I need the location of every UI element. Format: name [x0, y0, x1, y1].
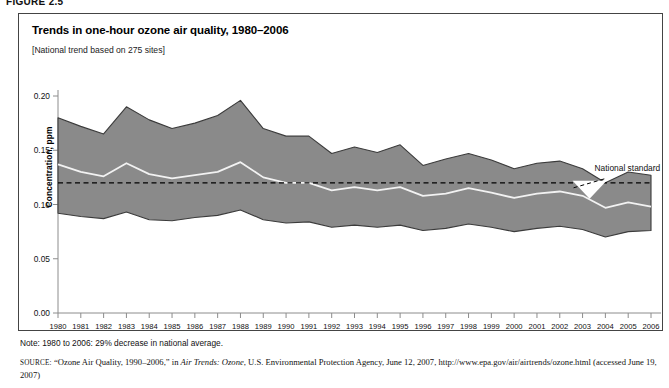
svg-text:1990: 1990	[278, 322, 295, 331]
svg-text:2004: 2004	[597, 322, 614, 331]
source-text-before: “Ozone Air Quality, 1990–2006,” in	[54, 357, 181, 367]
svg-text:1987: 1987	[209, 322, 226, 331]
svg-text:1984: 1984	[141, 322, 158, 331]
svg-text:0.20: 0.20	[34, 91, 51, 101]
svg-text:0.05: 0.05	[34, 254, 51, 264]
svg-text:1989: 1989	[255, 322, 272, 331]
svg-text:1986: 1986	[186, 322, 203, 331]
ozone-trend-chart: 0.000.050.100.150.2019801981198219831984…	[19, 14, 664, 332]
svg-text:1992: 1992	[323, 322, 340, 331]
svg-text:1983: 1983	[118, 322, 135, 331]
svg-text:1994: 1994	[369, 322, 386, 331]
svg-text:1995: 1995	[392, 322, 409, 331]
svg-text:2002: 2002	[551, 322, 568, 331]
source-prefix: SOURCE:	[20, 359, 52, 367]
svg-text:1988: 1988	[232, 322, 249, 331]
figure-box: Trends in one-hour ozone air quality, 19…	[18, 13, 663, 331]
source-italic-title: Air Trends: Ozone	[181, 357, 244, 367]
svg-text:1980: 1980	[50, 322, 67, 331]
figure-source: SOURCE: “Ozone Air Quality, 1990–2006,” …	[20, 357, 660, 381]
svg-text:2001: 2001	[529, 322, 546, 331]
svg-text:1998: 1998	[460, 322, 477, 331]
svg-text:0.15: 0.15	[34, 145, 51, 155]
chart-plot-area: Concentration, ppm 0.000.050.100.150.201…	[19, 14, 664, 332]
svg-text:0.10: 0.10	[34, 200, 51, 210]
svg-text:1981: 1981	[72, 322, 89, 331]
svg-text:1996: 1996	[414, 322, 431, 331]
figure-label: FIGURE 2.5	[6, 0, 63, 7]
svg-text:1985: 1985	[164, 322, 181, 331]
svg-text:2005: 2005	[620, 322, 637, 331]
svg-text:1991: 1991	[300, 322, 317, 331]
svg-text:0.00: 0.00	[34, 308, 51, 318]
svg-text:2003: 2003	[574, 322, 591, 331]
svg-text:National standard: National standard	[595, 163, 661, 173]
svg-text:1997: 1997	[437, 322, 454, 331]
svg-text:2000: 2000	[506, 322, 523, 331]
figure-note: Note: 1980 to 2006: 29% decrease in nati…	[20, 338, 223, 348]
svg-text:2006: 2006	[643, 322, 660, 331]
svg-text:1999: 1999	[483, 322, 500, 331]
svg-text:1982: 1982	[95, 322, 112, 331]
svg-text:1993: 1993	[346, 322, 363, 331]
figure-page: FIGURE 2.5 Trends in one-hour ozone air …	[0, 0, 669, 388]
